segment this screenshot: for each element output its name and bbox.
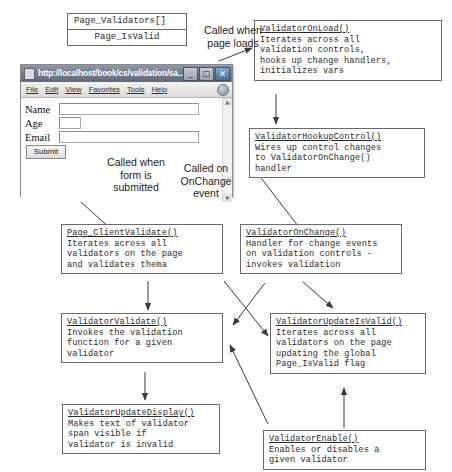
box-title: ValidatorOnLoad() (260, 24, 437, 35)
menu-item-tools[interactable]: Tools (127, 85, 145, 94)
box-line: and validates thema (67, 260, 218, 271)
box-validator-update-is-valid: ValidatorUpdateIsValid() Iterates across… (270, 313, 426, 374)
scroll-up-icon[interactable]: ▲ (223, 98, 232, 106)
box-line: validators on the page (67, 249, 218, 260)
box-validator-on-load: ValidatorOnLoad() Iterates across all va… (254, 20, 442, 81)
box-line: Page_IsValid flag (276, 359, 421, 370)
name-field[interactable] (59, 103, 199, 115)
arrow-enable-to-validate (230, 345, 268, 424)
annotation-called-on-onchange-event: Called on OnChange event (175, 162, 237, 200)
name-label: Name (25, 104, 59, 115)
page-icon (24, 68, 35, 80)
box-line: Enables or disables a (269, 445, 421, 456)
minimize-icon: _ (184, 68, 197, 80)
box-title: ValidatorHookupControl() (255, 132, 420, 143)
box-validator-validate: ValidatorValidate() Invokes the validati… (61, 313, 223, 363)
box-line: validation controls, (260, 45, 437, 56)
box-title: ValidatorUpdateDisplay() (68, 408, 215, 419)
menu-item-help[interactable]: Help (152, 85, 168, 94)
box-line: Wires up control changes (255, 143, 420, 154)
annotation-called-when-form-is-submitted: Called when form is submitted (105, 156, 167, 194)
menu-item-file[interactable]: File (26, 85, 38, 94)
form-row-email: Email (25, 131, 232, 143)
box-line: Iterates across all (276, 328, 421, 339)
box-line: initializes vars (260, 66, 437, 77)
email-label: Email (25, 132, 59, 143)
box-line: invokes validation (246, 260, 397, 271)
box-validator-hookup-control: ValidatorHookupControl() Wires up contro… (249, 128, 425, 178)
box-line: validators on the page (276, 338, 421, 349)
globals-box: Page_Validators[] Page_IsValid (67, 13, 187, 46)
box-line: on validation controls - (246, 249, 397, 260)
form-row-age: Age (25, 117, 232, 129)
form-row-name: Name (25, 103, 232, 115)
arrow-clientvalidate-to-updateisvalid (224, 281, 268, 336)
box-line: validator is invalid (68, 440, 215, 451)
box-line: updating the global (276, 349, 421, 360)
arrow-pageload-to-onload (219, 48, 252, 61)
minimize-button[interactable]: _ (183, 67, 198, 81)
close-button[interactable]: ✕ (215, 67, 230, 81)
box-line: function for a given (67, 338, 218, 349)
box-line: hooks up change handlers, (260, 56, 437, 67)
box-line: validator (67, 349, 218, 360)
menu-item-view[interactable]: View (65, 85, 81, 94)
box-title: ValidatorValidate() (67, 317, 218, 328)
menu-item-edit[interactable]: Edit (45, 85, 58, 94)
box-title: ValidatorUpdateIsValid() (276, 317, 421, 328)
browser-title: http://localhost/book/cs/validation/sa..… (38, 69, 183, 78)
browser-menubar[interactable]: File Edit View Favorites Tools Help (21, 82, 232, 98)
box-line: Invokes the validation (67, 328, 218, 339)
diagram-canvas: Page_Validators[] Page_IsValid Called wh… (0, 0, 452, 472)
box-title: ValidatorEnable() (269, 434, 421, 445)
maximize-icon: □ (200, 68, 213, 80)
box-line: span visible if (68, 429, 215, 440)
box-page-client-validate: Page_ClientValidate() Iterates across al… (61, 224, 223, 274)
submit-button[interactable]: Submit (26, 145, 66, 159)
arrow-onchange-to-validate (233, 283, 265, 325)
box-title: Page_ClientValidate() (67, 228, 218, 239)
age-field[interactable] (59, 117, 81, 129)
box-validator-update-display: ValidatorUpdateDisplay() Makes text of v… (62, 404, 220, 454)
age-label: Age (25, 118, 59, 129)
email-field[interactable] (59, 131, 199, 143)
arrow-onchange-to-updateisvalid (303, 282, 333, 308)
annotation-line: Called when page loads (196, 24, 270, 49)
annotation-called-when-page-loads: Called when page loads (196, 24, 270, 49)
maximize-button[interactable]: □ (199, 67, 214, 81)
box-validator-enable: ValidatorEnable() Enables or disables a … (263, 430, 426, 470)
box-line: Handler for change events (246, 239, 397, 250)
close-icon: ✕ (216, 68, 229, 80)
box-line: handler (255, 164, 420, 175)
box-validator-on-change: ValidatorOnChange() Handler for change e… (240, 224, 402, 274)
annotation-line: Called when form is submitted (105, 156, 167, 194)
global-page-validators: Page_Validators[] (68, 14, 186, 30)
box-line: given validator (269, 455, 421, 466)
box-line: to ValidatorOnChange() (255, 153, 420, 164)
box-line: Iterates across all (67, 239, 218, 250)
menu-item-favorites[interactable]: Favorites (89, 85, 120, 94)
box-line: Makes text of validator (68, 419, 215, 430)
box-line: Iterates across all (260, 35, 437, 46)
browser-titlebar[interactable]: http://localhost/book/cs/validation/sa..… (21, 65, 232, 82)
browser-logo-icon (217, 84, 229, 96)
box-title: ValidatorOnChange() (246, 228, 397, 239)
global-page-isvalid: Page_IsValid (68, 30, 186, 45)
annotation-line: Called on OnChange event (175, 162, 237, 200)
